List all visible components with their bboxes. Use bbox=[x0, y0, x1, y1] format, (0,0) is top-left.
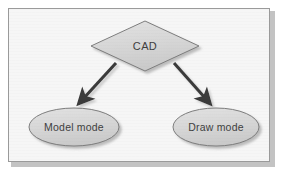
node-draw-mode[interactable]: Draw mode bbox=[173, 108, 259, 146]
arrow-line-right bbox=[174, 63, 206, 99]
node-model-mode-label: Model mode bbox=[44, 121, 104, 133]
node-model-mode[interactable]: Model mode bbox=[29, 108, 119, 146]
diagram-frame: CAD Model mode Draw mode bbox=[8, 8, 270, 162]
connector-cad-to-draw-mode bbox=[174, 63, 206, 99]
connector-cad-to-model-mode bbox=[83, 63, 116, 99]
node-cad-label: CAD bbox=[133, 40, 157, 52]
node-cad[interactable]: CAD bbox=[91, 21, 199, 71]
diagram-canvas: CAD Model mode Draw mode bbox=[0, 0, 285, 176]
node-draw-mode-label: Draw mode bbox=[188, 121, 243, 133]
arrow-line-left bbox=[83, 63, 116, 99]
diagram-graphic: CAD Model mode Draw mode bbox=[9, 9, 270, 162]
